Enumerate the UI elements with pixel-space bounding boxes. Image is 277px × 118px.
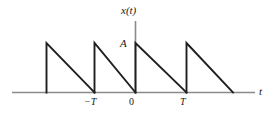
waveform-period-T	[187, 43, 234, 93]
y-axis-label: x(t)	[121, 5, 136, 16]
x-tick-label-T: T	[180, 97, 186, 107]
waveform-period-0	[136, 43, 187, 93]
waveform-period--2T	[47, 43, 95, 93]
x-tick-label-zero: 0	[129, 97, 134, 107]
sawtooth-waveform-figure: x(t) t A −T 0 T	[0, 0, 277, 118]
x-axis-label: t	[259, 86, 262, 97]
x-tick-label-negative-T: −T	[84, 97, 96, 107]
waveform-period--T	[95, 43, 136, 93]
amplitude-label: A	[120, 38, 127, 49]
waveform-plot	[0, 0, 277, 118]
waveform-trace	[47, 43, 234, 93]
